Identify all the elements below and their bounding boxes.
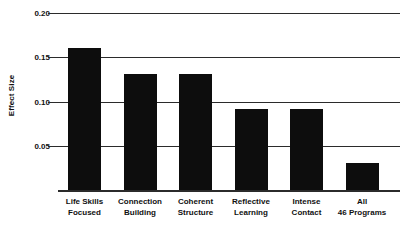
y-axis-title: Effect Size: [0, 0, 24, 190]
x-label-line1: Intense: [292, 197, 320, 206]
x-label-line1: Coherent: [178, 197, 213, 206]
x-label-line1: All: [357, 197, 367, 206]
x-label-line1: Reflective: [232, 197, 270, 206]
tick-mark-0-2: [48, 13, 58, 14]
bar-1: [124, 74, 157, 190]
x-label-line1: Life Skills: [66, 197, 103, 206]
bar-3: [235, 109, 268, 190]
effect-size-bar-chart: Effect Size 0.20 0.15 0.10 0.05 Life Ski…: [0, 0, 420, 235]
bar-0: [68, 48, 101, 190]
bars-layer: [58, 0, 400, 190]
y-axis-title-text: Effect Size: [8, 74, 17, 116]
x-axis-category-labels: Life Skills Focused Connection Building …: [58, 196, 400, 232]
tick-mark-0-1: [48, 102, 58, 103]
x-label-all-46-programs: All 46 Programs: [322, 196, 402, 218]
tick-mark-0-15: [48, 57, 58, 58]
bar-4: [290, 109, 323, 190]
bar-2: [179, 74, 212, 190]
x-axis-line: [58, 190, 400, 192]
tick-mark-0-05: [48, 146, 58, 147]
x-label-line2: 46 Programs: [322, 207, 402, 218]
y-axis-tick-labels: 0.20 0.15 0.10 0.05: [22, 0, 50, 192]
bar-5: [346, 163, 379, 190]
